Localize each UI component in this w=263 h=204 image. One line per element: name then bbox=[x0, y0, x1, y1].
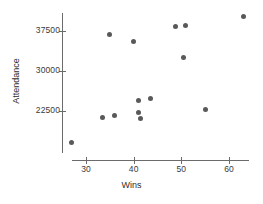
data-point bbox=[136, 98, 141, 103]
y-axis-tick bbox=[59, 71, 66, 72]
x-axis-tick bbox=[134, 157, 135, 164]
y-axis-title: Attendance bbox=[11, 41, 21, 121]
data-point bbox=[107, 32, 112, 37]
x-axis-tick-label: 50 bbox=[166, 164, 196, 174]
x-axis-tick bbox=[86, 157, 87, 164]
x-axis-tick-label: 40 bbox=[119, 164, 149, 174]
scatter-plot-figure: 225003000037500 30405060 Wins Attendance bbox=[0, 0, 263, 204]
y-axis-tick bbox=[59, 111, 66, 112]
data-point bbox=[69, 140, 74, 145]
x-axis-tick bbox=[229, 157, 230, 164]
x-axis-tick-label: 30 bbox=[71, 164, 101, 174]
data-point bbox=[100, 115, 105, 120]
data-point bbox=[112, 113, 117, 118]
x-axis-tick bbox=[181, 157, 182, 164]
y-axis-tick-label: 22500 bbox=[18, 105, 60, 115]
y-axis-tick-label: 37500 bbox=[18, 25, 60, 35]
x-axis-line bbox=[72, 160, 249, 161]
data-point bbox=[241, 14, 246, 19]
data-point bbox=[136, 110, 141, 115]
y-axis-tick-label: 30000 bbox=[18, 65, 60, 75]
data-point bbox=[173, 24, 178, 29]
data-point bbox=[131, 39, 136, 44]
x-axis-title: Wins bbox=[0, 180, 263, 190]
data-point bbox=[181, 55, 186, 60]
plot-area: 225003000037500 30405060 Wins Attendance bbox=[0, 0, 263, 204]
y-axis-tick bbox=[59, 31, 66, 32]
x-axis-tick-label: 60 bbox=[214, 164, 244, 174]
y-axis-line bbox=[62, 13, 63, 153]
data-point bbox=[148, 96, 153, 101]
data-point bbox=[183, 23, 188, 28]
data-point bbox=[138, 116, 143, 121]
data-point bbox=[203, 107, 208, 112]
